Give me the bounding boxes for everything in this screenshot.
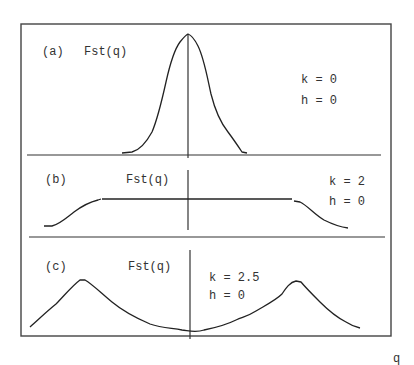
panel-c-curve	[30, 280, 360, 332]
panel-b-label: (b)	[45, 173, 67, 187]
panel-a-k-value: k = 0	[301, 73, 337, 87]
x-axis-label: q	[393, 352, 400, 365]
panel-b: (b) Fst(q) k = 2 h = 0	[44, 170, 365, 230]
panel-a-h-value: h = 0	[301, 94, 337, 108]
panel-a: (a) Fst(q) k = 0 h = 0	[42, 34, 337, 158]
panel-a-label: (a)	[42, 45, 64, 59]
panel-c-label: (c)	[45, 260, 67, 274]
panel-a-curve	[122, 34, 247, 153]
fst-figure: (a) Fst(q) k = 0 h = 0 (b) Fst(q) k = 2 …	[0, 0, 414, 365]
panel-b-k-value: k = 2	[329, 175, 365, 189]
panel-c-fst-label: Fst(q)	[128, 260, 171, 274]
panel-c-h-value: h = 0	[209, 289, 245, 303]
panel-c-k-value: k = 2.5	[209, 271, 259, 285]
panel-c: (c) Fst(q) k = 2.5 h = 0	[30, 250, 360, 339]
panel-b-fst-label: Fst(q)	[126, 173, 169, 187]
panel-b-h-value: h = 0	[329, 195, 365, 209]
panel-a-fst-label: Fst(q)	[84, 45, 127, 59]
panel-b-curve-left	[44, 199, 101, 226]
